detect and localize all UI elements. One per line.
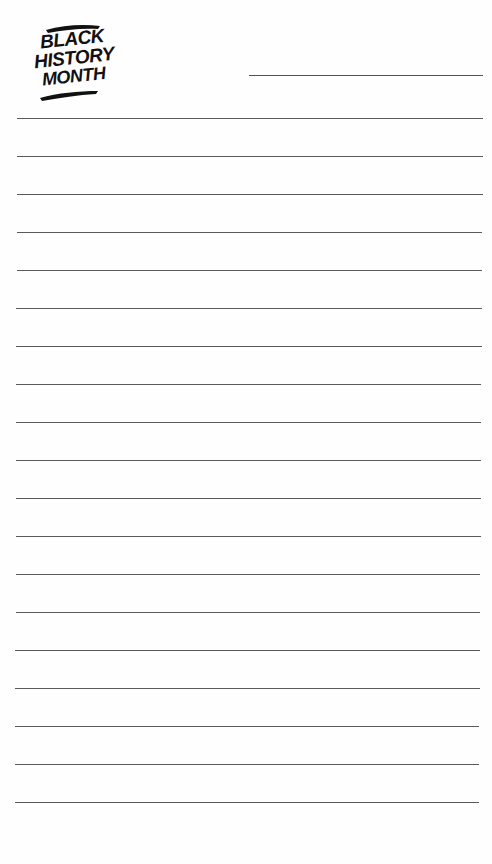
ruled-line[interactable] — [16, 460, 481, 461]
name-write-line[interactable] — [249, 75, 483, 76]
ruled-line[interactable] — [16, 346, 482, 347]
ruled-line[interactable] — [17, 270, 482, 271]
ruled-line[interactable] — [15, 802, 479, 803]
ruled-line[interactable] — [15, 764, 479, 765]
ruled-line[interactable] — [16, 574, 480, 575]
black-history-month-logo: BLACK HISTORY MONTH — [28, 22, 120, 104]
ruled-line[interactable] — [15, 726, 479, 727]
ruled-line[interactable] — [17, 156, 483, 157]
logo-text: BLACK HISTORY MONTH — [25, 24, 122, 90]
ruled-line[interactable] — [16, 612, 480, 613]
ruled-line[interactable] — [17, 232, 482, 233]
ruled-line[interactable] — [17, 118, 483, 119]
ruled-line[interactable] — [16, 308, 482, 309]
notepad-page: BLACK HISTORY MONTH — [0, 0, 492, 864]
ruled-line[interactable] — [15, 650, 480, 651]
ruled-line[interactable] — [15, 688, 480, 689]
ruled-line[interactable] — [17, 194, 483, 195]
ruled-line[interactable] — [16, 384, 481, 385]
ruled-line[interactable] — [16, 422, 481, 423]
ruled-line[interactable] — [16, 498, 481, 499]
ruled-line[interactable] — [16, 536, 481, 537]
